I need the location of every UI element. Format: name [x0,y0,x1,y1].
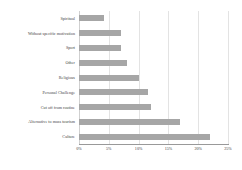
category-label: Religious [59,75,75,80]
bar-row [79,129,228,144]
category-label-row: Without specific motivation [0,26,75,41]
category-label-row: Sport [0,41,75,56]
category-axis-labels: SpiritualWithout specific motivationSpor… [0,11,75,144]
bar[interactable] [79,119,180,125]
category-label: Alternative to mass tourism [28,119,75,124]
bar[interactable] [79,104,151,110]
bar[interactable] [79,134,210,140]
category-label: Personal Challenge [42,90,75,95]
x-tick-label: 0% [76,146,81,152]
category-label: Culture [62,134,75,139]
plot-area [79,11,228,144]
category-label-row: Spiritual [0,11,75,26]
x-axis-tick-labels: 0%5%10%15%20%25% [0,146,242,158]
bar-chart: SpiritualWithout specific motivationSpor… [0,0,242,170]
bar-row [79,114,228,129]
bar-row [79,41,228,56]
bar[interactable] [79,60,127,66]
bar-row [79,11,228,26]
bar[interactable] [79,75,139,81]
x-axis-line [79,144,229,145]
x-tick-label: 20% [194,146,202,152]
category-label: Without specific motivation [28,31,75,36]
bar-rows [79,11,228,144]
bar[interactable] [79,45,121,51]
category-label-row: Alternative to mass tourism [0,114,75,129]
x-tick-label: 10% [135,146,143,152]
bar-row [79,100,228,115]
bar-row [79,85,228,100]
bar[interactable] [79,30,121,36]
category-label-row: Other [0,55,75,70]
category-label: Sport [66,45,75,50]
category-label-row: Religious [0,70,75,85]
bar-row [79,26,228,41]
bar[interactable] [79,15,104,21]
category-label: Spiritual [60,16,75,21]
category-label-row: Personal Challenge [0,85,75,100]
category-label: Cut off from routine [41,105,75,110]
x-tick-label: 15% [165,146,173,152]
x-tick-label: 25% [224,146,232,152]
category-label-row: Cut off from routine [0,100,75,115]
gridline-25pct [228,11,229,144]
category-label: Other [65,60,75,65]
category-label-row: Culture [0,129,75,144]
x-tick-label: 5% [106,146,111,152]
bar-row [79,55,228,70]
bar-row [79,70,228,85]
bar[interactable] [79,89,148,95]
